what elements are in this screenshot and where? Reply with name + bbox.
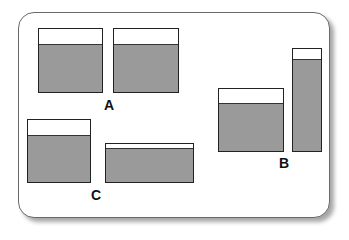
liquid-fill (106, 148, 193, 182)
liquid-fill (219, 103, 283, 151)
group-label-b: B (279, 155, 289, 171)
container-b-2 (292, 48, 322, 152)
container-a-1 (38, 28, 103, 93)
liquid-fill (293, 59, 321, 151)
liquid-fill (39, 44, 102, 92)
liquid-fill (28, 135, 90, 182)
container-c-1 (27, 119, 91, 183)
container-b-1 (218, 88, 284, 152)
container-c-2 (105, 143, 194, 183)
liquid-fill (114, 44, 178, 92)
group-label-a: A (104, 97, 114, 113)
group-label-c: C (91, 187, 101, 203)
container-a-2 (113, 28, 179, 93)
